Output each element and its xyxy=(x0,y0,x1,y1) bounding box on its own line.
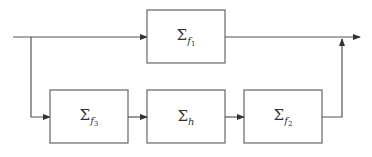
branch-line xyxy=(31,37,50,117)
sigma-symbol: Σ xyxy=(177,26,188,44)
sub-index: 3 xyxy=(94,120,98,128)
sigma-symbol: Σ xyxy=(80,106,91,124)
label-sigma-h: Σh xyxy=(177,109,194,127)
label-sigma-f1: Σf1 xyxy=(177,28,196,48)
sub-index: 2 xyxy=(288,120,292,128)
block-diagram xyxy=(0,0,372,157)
sigma-symbol: Σ xyxy=(274,106,285,124)
sub-index: 1 xyxy=(191,40,195,48)
return-line xyxy=(322,39,342,117)
subscript: h xyxy=(188,116,194,127)
sigma-symbol: Σ xyxy=(177,107,188,125)
label-sigma-f2: Σf2 xyxy=(274,108,293,128)
label-sigma-f3: Σf3 xyxy=(80,108,99,128)
